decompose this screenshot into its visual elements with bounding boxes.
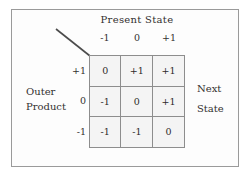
row-header-plus-one: +1 (60, 55, 86, 86)
table-cell: +1 (121, 56, 153, 87)
table-cell: -1 (90, 117, 121, 148)
table-cell: +1 (153, 86, 185, 117)
table-row: -1 -1 0 (90, 117, 185, 148)
row-header-minus-one: -1 (60, 116, 86, 147)
table-row: -1 0 +1 (90, 86, 185, 117)
table-cell: -1 (121, 117, 153, 148)
table-row: 0 +1 +1 (90, 56, 185, 87)
next-state-label-line-2: State (197, 99, 241, 119)
table-cell: +1 (153, 56, 185, 87)
table-cell: -1 (90, 86, 121, 117)
column-header-row: -1 0 +1 (89, 32, 185, 43)
next-state-table: 0 +1 +1 -1 0 +1 -1 -1 0 (89, 55, 185, 148)
column-header-minus-one: -1 (89, 32, 121, 43)
next-state-label: Next State (197, 79, 241, 119)
next-state-label-line-1: Next (197, 79, 241, 99)
column-header-plus-one: +1 (153, 32, 185, 43)
table-cell: 0 (90, 56, 121, 87)
row-header-zero: 0 (60, 86, 86, 117)
table-cell: 0 (121, 86, 153, 117)
figure-root: Present State -1 0 +1 Outer Product +1 0… (0, 0, 251, 177)
column-header-zero: 0 (121, 32, 153, 43)
table-cell: 0 (153, 117, 185, 148)
present-state-title: Present State (89, 14, 185, 25)
row-header-column: +1 0 -1 (60, 55, 86, 147)
